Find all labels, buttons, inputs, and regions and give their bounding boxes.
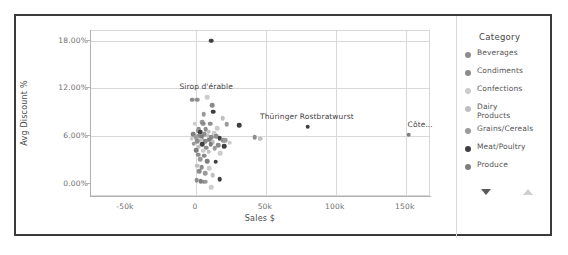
scatter-point[interactable] [209, 185, 214, 190]
scatter-point[interactable] [215, 126, 220, 131]
x-tick-label: 150k [395, 202, 414, 211]
x-gridline [406, 31, 407, 195]
legend-item-label: Confections [477, 84, 522, 93]
x-axis-line [90, 196, 431, 197]
legend-color-swatch [465, 128, 471, 134]
legend-color-swatch [465, 146, 471, 152]
legend-title: Category [479, 32, 520, 42]
scatter-point[interactable] [222, 144, 227, 149]
legend-panel: Category BeveragesCondimentsConfectionsD… [456, 16, 550, 238]
y-tick-mark [86, 135, 90, 136]
y-tick-label: 12.00% [44, 83, 88, 92]
scatter-point[interactable] [213, 160, 218, 165]
scatter-point[interactable] [205, 95, 210, 100]
legend-item[interactable]: Confections [463, 84, 548, 101]
point-label: Sirop d'érable [179, 82, 232, 91]
scatter-point[interactable] [209, 38, 214, 43]
point-label: Côte... [408, 120, 433, 129]
legend-item[interactable]: Meat/Poultry [463, 142, 548, 159]
scatter-point[interactable] [211, 109, 216, 114]
legend-item[interactable]: Dairy Products [463, 102, 548, 123]
legend-color-swatch [465, 164, 471, 170]
x-axis-label: Sales $ [90, 214, 430, 223]
y-tick-mark [86, 183, 90, 184]
scatter-point[interactable] [201, 112, 206, 117]
y-gridline [91, 41, 429, 42]
worksheet-frame: -50k050k100k150k 0.00%6.00%12.00%18.00% … [14, 14, 552, 236]
y-axis-line [90, 30, 91, 197]
legend-item[interactable]: Produce [463, 160, 548, 177]
legend-color-swatch [465, 70, 471, 76]
legend-color-swatch [465, 52, 471, 58]
scatter-point[interactable] [258, 136, 263, 141]
scatter-point[interactable] [207, 166, 212, 171]
legend-item-label: Meat/Poultry [477, 142, 526, 151]
scatter-point[interactable] [237, 123, 242, 128]
legend-pagination[interactable] [481, 189, 533, 195]
scatter-point[interactable] [220, 116, 225, 121]
point-label: Thüringer Rostbratwurst [260, 112, 354, 121]
scatter-point[interactable] [406, 132, 411, 137]
triangle-up-icon[interactable] [523, 189, 533, 195]
y-tick-label: 0.00% [44, 179, 88, 188]
x-tick-label: 100k [325, 202, 344, 211]
legend-color-swatch [465, 88, 471, 94]
scatter-point[interactable] [227, 140, 232, 145]
scatter-point[interactable] [218, 151, 223, 156]
x-tick-label: 50k [258, 202, 273, 211]
scatter-point[interactable] [252, 135, 257, 140]
scatter-point[interactable] [210, 103, 215, 108]
scatter-point[interactable] [306, 124, 311, 129]
legend-item-label: Beverages [477, 48, 518, 57]
scatter-point[interactable] [210, 173, 215, 178]
triangle-down-icon[interactable] [481, 189, 491, 195]
legend-item-label: Grains/Cereals [477, 124, 533, 133]
scatter-point[interactable] [213, 146, 218, 151]
scatter-point[interactable] [190, 97, 195, 102]
scatter-point[interactable] [203, 171, 208, 176]
scatter-point[interactable] [195, 97, 200, 102]
y-tick-label: 18.00% [44, 35, 88, 44]
legend-items: BeveragesCondimentsConfectionsDairy Prod… [463, 48, 548, 178]
scatter-point[interactable] [203, 180, 208, 185]
scatter-point[interactable] [206, 149, 211, 154]
legend-item-label: Produce [477, 160, 508, 169]
scatter-point[interactable] [205, 159, 210, 164]
x-tick-label: 0 [192, 202, 197, 211]
scatter-point[interactable] [224, 122, 229, 127]
scatter-point[interactable] [192, 141, 197, 146]
plot-region: -50k050k100k150k 0.00%6.00%12.00%18.00% … [16, 16, 456, 238]
scatter-point[interactable] [198, 157, 203, 162]
y-axis-label: Avg Discount % [20, 80, 29, 145]
y-tick-mark [86, 87, 90, 88]
scatter-point[interactable] [208, 121, 213, 126]
scatter-point[interactable] [192, 121, 197, 126]
legend-item[interactable]: Condiments [463, 66, 548, 83]
y-tick-mark [86, 40, 90, 41]
scatter-point[interactable] [201, 121, 206, 126]
legend-item[interactable]: Grains/Cereals [463, 124, 548, 141]
legend-item-label: Dairy Products [477, 102, 510, 120]
scatter-plot-worksheet: -50k050k100k150k 0.00%6.00%12.00%18.00% … [0, 0, 568, 255]
y-gridline [91, 88, 429, 89]
x-tick-label: -50k [116, 202, 133, 211]
legend-item[interactable]: Beverages [463, 48, 548, 65]
legend-color-swatch [465, 106, 471, 112]
scatter-point[interactable] [197, 169, 202, 174]
y-tick-label: 6.00% [44, 131, 88, 140]
legend-item-label: Condiments [477, 66, 523, 75]
scatter-point[interactable] [202, 153, 207, 158]
scatter-point[interactable] [217, 177, 222, 182]
